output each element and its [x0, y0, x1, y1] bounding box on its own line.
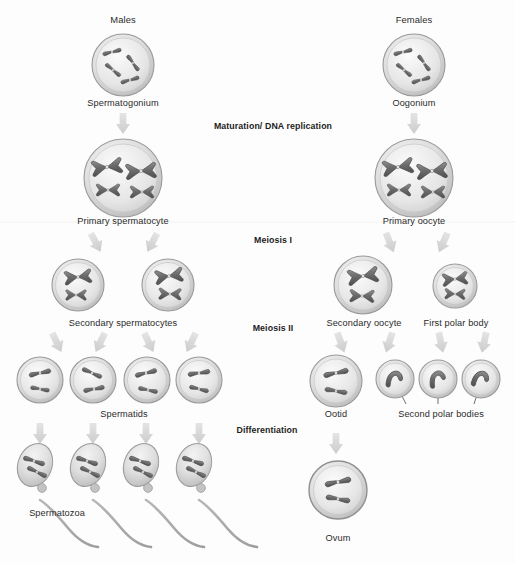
cell-first-polar-body	[433, 264, 477, 308]
arrow-diff-1	[33, 423, 47, 444]
arrow-meiosis1-male-right	[141, 230, 163, 255]
primary-oocyte-label: Primary oocyte	[383, 216, 446, 227]
arrow-meiosis2-m1	[46, 330, 68, 355]
cell-spermatid-2	[70, 357, 116, 403]
stage-label-differentiation: Differentiation	[236, 425, 297, 436]
cell-spermatid-1	[17, 357, 63, 403]
ootid-label: Ootid	[325, 409, 347, 420]
stage-label-meiosis-2: Meiosis II	[253, 323, 294, 334]
arrow-oogonium-to-primary	[407, 113, 421, 134]
second-polar-bodies-label: Second polar bodies	[398, 409, 484, 420]
cell-primary-oocyte	[375, 139, 453, 217]
spermatozoa-label: Spermatozoa	[29, 508, 85, 519]
females-heading: Females	[396, 14, 433, 25]
cell-secondary-spermatocyte-right	[142, 259, 194, 311]
arrow-meiosis2-m4	[180, 330, 202, 355]
stage-label-maturation: Maturation/ DNA replication	[214, 121, 332, 132]
spermatogonium-label: Spermatogonium	[87, 98, 158, 109]
cell-primary-spermatocyte	[84, 139, 162, 217]
arrow-diff-3	[139, 423, 153, 444]
arrow-meiosis2-m2	[89, 330, 111, 355]
arrow-meiosis2-f2	[379, 330, 399, 354]
secondary-spermatocytes-label: Secondary spermatocytes	[69, 318, 178, 329]
arrow-meiosis1-female-right	[433, 230, 454, 255]
secondary-oocyte-label: Secondary oocyte	[326, 318, 401, 329]
arrow-diff-2	[86, 423, 100, 444]
arrow-meiosis2-f4	[475, 331, 493, 354]
cell-spermatid-4	[176, 357, 222, 403]
spermatids-label: Spermatids	[100, 409, 147, 420]
cell-oogonium	[383, 34, 445, 96]
spermatozoon-4	[171, 439, 257, 547]
cell-ovum	[309, 461, 367, 519]
cell-secondary-spermatocyte-left	[52, 259, 104, 311]
arrow-meiosis2-m3	[138, 330, 160, 355]
arrow-spermatogonium-to-primary	[116, 113, 130, 134]
ovum-label: Ovum	[326, 533, 351, 544]
cell-second-polar-body-1	[376, 360, 414, 398]
arrow-meiosis1-female-left	[379, 230, 400, 255]
males-heading: Males	[110, 14, 136, 25]
cell-spermatid-3	[124, 357, 170, 403]
cell-second-polar-body-3	[462, 360, 500, 398]
arrow-diff-4	[192, 423, 206, 444]
gametogenesis-diagram: Males Females Spermatogonium Oogonium Pr…	[0, 0, 515, 565]
primary-spermatocyte-label: Primary spermatocyte	[77, 216, 168, 227]
first-polar-body-label: First polar body	[424, 318, 489, 329]
arrow-meiosis2-f1	[331, 330, 351, 355]
arrow-meiosis2-f3	[432, 331, 450, 354]
cell-ootid	[310, 355, 362, 407]
cell-spermatogonium	[92, 34, 154, 96]
arrow-meiosis1-male-left	[85, 230, 107, 255]
diagram-artwork	[0, 0, 515, 565]
arrow-ootid-to-ovum	[329, 433, 343, 454]
cell-secondary-oocyte	[334, 256, 392, 314]
stage-label-meiosis-1: Meiosis I	[254, 235, 292, 246]
cell-second-polar-body-2	[419, 360, 457, 398]
oogonium-label: Oogonium	[392, 98, 435, 109]
